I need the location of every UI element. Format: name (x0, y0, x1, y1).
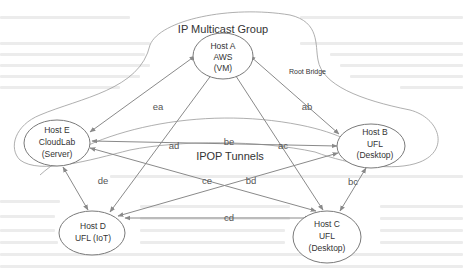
node-host-b[interactable]: Host B UFL (Desktop) (337, 124, 405, 168)
node-host-d[interactable]: Host D UFL (IoT) (59, 211, 125, 255)
host-c-site: UFL (319, 231, 335, 241)
edge-label-bd: bd (246, 175, 257, 186)
ipop-tunnels-label: IPOP Tunnels (196, 150, 264, 162)
edge-label-ea: ea (153, 101, 164, 112)
node-host-e[interactable]: Host E CloudLab (Server) (24, 120, 90, 166)
node-host-a[interactable]: Host A AWS (VM) (193, 33, 253, 79)
host-c-type: (Desktop) (309, 243, 346, 253)
host-a-name: Host A (210, 41, 235, 51)
root-bridge-label: Root Bridge (289, 68, 326, 76)
edge-ad (110, 70, 215, 212)
edge-be (92, 141, 337, 146)
edge-label-ce: ce (202, 175, 212, 186)
edge-label-ad: ad (169, 140, 180, 151)
edge-de (63, 167, 88, 210)
host-e-type: (Server) (42, 149, 73, 159)
edge-label-cd: cd (224, 212, 234, 223)
edge-label-ac: ac (278, 140, 288, 151)
network-diagram: ea ab ad ac be de ce bd bc cd IP Multica… (0, 0, 463, 271)
host-d-name: Host D (80, 221, 106, 231)
host-e-site: CloudLab (39, 137, 76, 147)
edge-label-be: be (224, 136, 235, 147)
host-a-type: (VM) (214, 63, 233, 73)
edge-label-de: de (98, 175, 109, 186)
host-b-name: Host B (362, 127, 388, 137)
host-e-name: Host E (44, 125, 70, 135)
host-a-site: AWS (213, 52, 232, 62)
host-b-type: (Desktop) (357, 150, 394, 160)
edge-bd (118, 153, 338, 216)
edge-label-bc: bc (348, 176, 358, 187)
ipop-tunnels-region (40, 118, 375, 175)
node-host-c[interactable]: Host C UFL (Desktop) (293, 211, 361, 263)
host-b-site: UFL (367, 139, 383, 149)
host-d-site: UFL (IoT) (75, 233, 111, 243)
edge-bc (340, 168, 366, 211)
host-c-name: Host C (314, 219, 340, 229)
edge-label-ab: ab (302, 101, 313, 112)
